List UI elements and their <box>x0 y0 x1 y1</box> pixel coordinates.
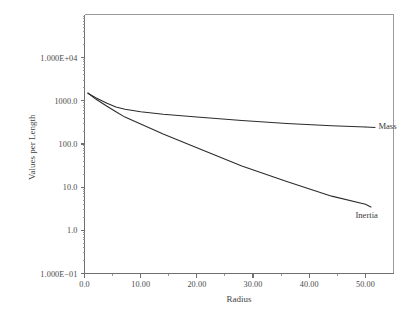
plot-frame <box>85 15 394 274</box>
frame-top-right <box>85 15 394 274</box>
x-axis-title: Radius <box>226 294 251 304</box>
x-tick-label: 0.0 <box>79 280 90 289</box>
x-tick-label: 20.00 <box>187 280 206 289</box>
annotation-leaders <box>365 127 375 207</box>
mass-leader-line <box>365 127 375 128</box>
series-line-mass <box>88 93 366 127</box>
series-annotation-inertia: Inertia <box>355 210 377 220</box>
x-tick-label: 10.00 <box>131 280 150 289</box>
x-axis-ticks <box>85 274 366 278</box>
y-tick-label: 1.0 <box>67 226 78 235</box>
x-tick-label: 40.00 <box>300 280 319 289</box>
y-tick-label: 1.000E+04 <box>40 53 77 62</box>
x-tick-label: 50.00 <box>356 280 375 289</box>
series-paths <box>88 93 366 204</box>
y-tick-label: 100.0 <box>59 140 78 149</box>
axis-left-bottom <box>85 15 394 274</box>
y-axis-ticks <box>81 16 85 273</box>
series-annotation-mass: Mass <box>378 121 396 131</box>
chart-figure: 1.000E−011.010.0100.01000.01.000E+04 0.0… <box>0 0 416 327</box>
y-tick-label: 10.0 <box>63 183 78 192</box>
y-tick-label: 1.000E−01 <box>40 269 77 278</box>
y-axis-title: Values per Length <box>27 115 37 180</box>
x-tick-label: 30.00 <box>244 280 263 289</box>
y-tick-label: 1000.0 <box>54 96 77 105</box>
inertia-leader-line <box>365 204 371 207</box>
